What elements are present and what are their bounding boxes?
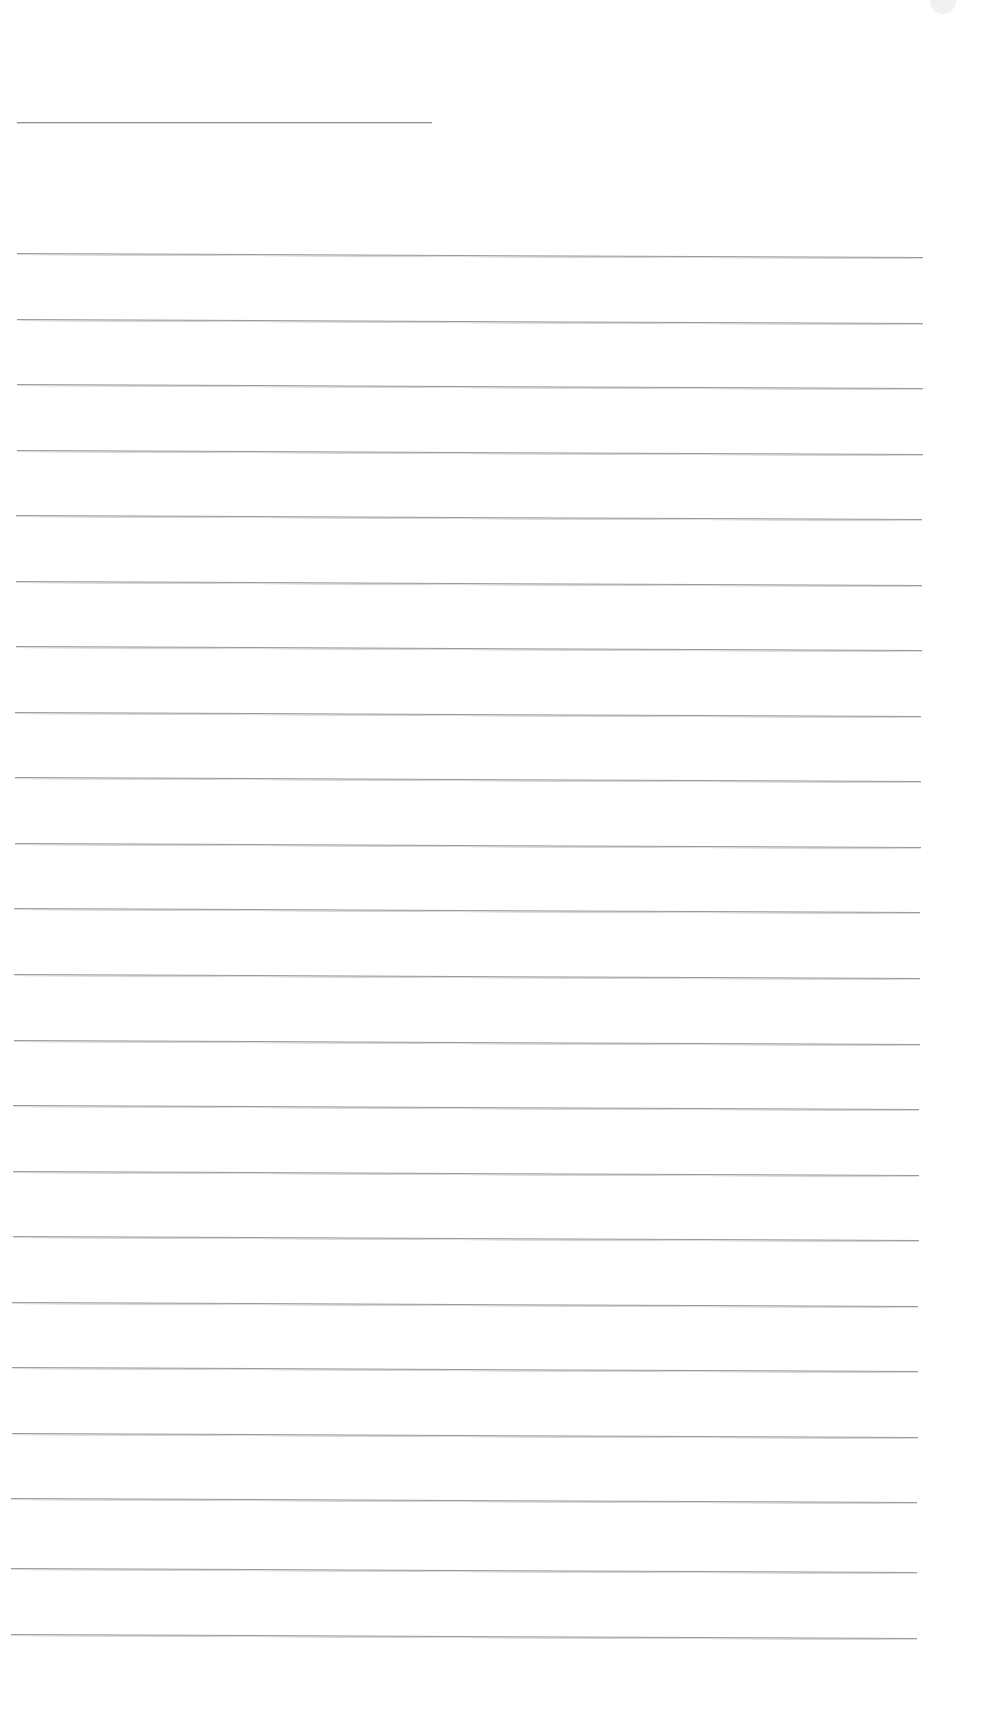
ruled-line <box>11 1498 917 1504</box>
ruled-line <box>16 581 922 587</box>
ruled-line <box>12 1433 918 1439</box>
ruled-line <box>14 1040 920 1046</box>
ruled-line <box>15 777 921 783</box>
ruled-line <box>17 384 923 390</box>
ruled-line <box>15 843 921 849</box>
ruled-line <box>16 646 922 652</box>
ruled-line <box>14 908 920 914</box>
ruled-line <box>13 1171 919 1177</box>
ruled-line <box>12 1302 918 1308</box>
ruled-line <box>11 1634 917 1640</box>
ruled-line <box>13 1105 919 1111</box>
ruled-line <box>14 974 920 980</box>
ruled-line <box>16 515 922 521</box>
ruled-line <box>17 450 923 456</box>
ruled-line <box>12 1367 918 1373</box>
scan-smudge <box>930 0 956 14</box>
ruled-line <box>11 1568 917 1574</box>
ruled-line <box>17 253 923 259</box>
ruled-line <box>17 319 923 325</box>
ruled-line <box>15 712 921 718</box>
ruled-line <box>13 1236 919 1242</box>
lined-page <box>0 0 983 1716</box>
title-line <box>17 122 432 124</box>
